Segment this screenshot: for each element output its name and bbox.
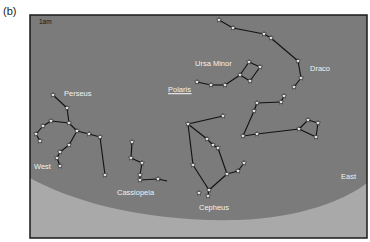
label-draco: Draco <box>310 64 330 73</box>
direction-east: East <box>341 172 357 181</box>
label-cepheus: Cepheus <box>199 203 229 212</box>
label-cassiopeia: Cassiopeia <box>117 188 155 197</box>
sky-chart: DracoUrsa MinorPerseusCassiopeiaCepheusP… <box>0 0 370 242</box>
direction-west: West <box>34 162 52 171</box>
label-perseus: Perseus <box>64 89 92 98</box>
label-ursa-minor: Ursa Minor <box>195 59 232 68</box>
label-polaris: Polaris <box>168 85 191 94</box>
time-label: 1am <box>39 18 52 25</box>
